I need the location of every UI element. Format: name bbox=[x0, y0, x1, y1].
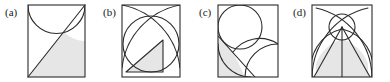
panel-a-graphic bbox=[0, 0, 100, 82]
panel-c-graphic bbox=[195, 0, 290, 82]
panel-d: (d) bbox=[290, 0, 390, 82]
panel-a: (a) bbox=[0, 0, 100, 82]
panel-d-graphic bbox=[290, 0, 390, 82]
panel-c: (c) bbox=[195, 0, 290, 82]
panel-c-small-circle bbox=[218, 5, 262, 49]
panel-b-graphic bbox=[100, 0, 195, 82]
panel-b: (b) bbox=[100, 0, 195, 82]
figure-root: (a) (b) bbox=[0, 0, 390, 82]
panel-c-arc-link bbox=[233, 38, 278, 52]
